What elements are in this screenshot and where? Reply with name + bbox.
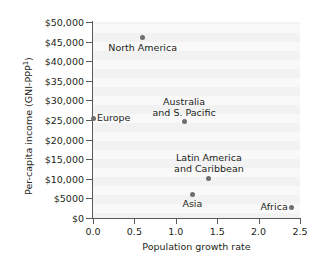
data-point-label-line: and Caribbean xyxy=(174,163,244,174)
data-point-label: North America xyxy=(108,42,177,53)
y-tick-mark xyxy=(86,61,92,62)
y-tick-mark xyxy=(86,218,92,219)
y-axis-title: Per-capita income (GNI-PPP1) xyxy=(22,36,34,216)
data-point-label-line: Australia xyxy=(153,96,216,107)
x-tick-label: 1.0 xyxy=(156,226,196,237)
y-tick-mark xyxy=(86,42,92,43)
y-tick-label: $0 xyxy=(0,213,84,224)
x-axis-line xyxy=(92,218,301,219)
y-tick-mark xyxy=(86,159,92,160)
y-tick-label: $15,000 xyxy=(0,154,84,165)
x-tick-mark xyxy=(259,219,260,224)
x-tick-mark xyxy=(217,219,218,224)
plot-band xyxy=(93,78,300,87)
x-tick-label: 2.5 xyxy=(280,226,320,237)
data-point-label-line: North America xyxy=(108,42,177,53)
x-tick-label: 0.0 xyxy=(73,226,113,237)
y-axis-title-footnote-marker: 1 xyxy=(22,61,30,65)
x-tick-mark xyxy=(134,219,135,224)
x-axis-title: Population growth rate xyxy=(93,241,300,252)
data-point-label-line: Africa xyxy=(261,201,288,212)
x-tick-mark xyxy=(93,219,94,224)
data-point-label-line: Latin America xyxy=(174,152,244,163)
data-point xyxy=(91,116,96,121)
x-tick-mark xyxy=(176,219,177,224)
data-point-label-line: and S. Pacific xyxy=(153,107,216,118)
plot-band xyxy=(93,60,300,69)
y-tick-mark xyxy=(86,81,92,82)
data-point-label: Africa xyxy=(261,201,288,212)
y-tick-label: $10,000 xyxy=(0,173,84,184)
plot-band xyxy=(93,186,300,195)
y-tick-mark xyxy=(86,22,92,23)
x-tick-label: 0.5 xyxy=(114,226,154,237)
data-point-label: Australiaand S. Pacific xyxy=(153,96,216,118)
y-tick-mark xyxy=(86,179,92,180)
y-tick-label: $45,000 xyxy=(0,36,84,47)
y-tick-label: $50,000 xyxy=(0,17,84,28)
y-tick-mark xyxy=(86,100,92,101)
plot-band xyxy=(93,132,300,141)
y-tick-label: $40,000 xyxy=(0,56,84,67)
scatter-chart-figure: $0$5000$10,000$15,000$20,000$25,000$30,0… xyxy=(0,0,323,265)
y-tick-label: $5000 xyxy=(0,193,84,204)
x-tick-label: 2.0 xyxy=(239,226,279,237)
x-tick-label: 1.5 xyxy=(197,226,237,237)
data-point-label-line: Asia xyxy=(182,198,202,209)
data-point xyxy=(190,192,195,197)
y-tick-label: $30,000 xyxy=(0,95,84,106)
y-tick-label: $35,000 xyxy=(0,75,84,86)
y-tick-mark xyxy=(86,140,92,141)
plot-band xyxy=(93,24,300,33)
data-point-label: Latin Americaand Caribbean xyxy=(174,152,244,174)
data-point-label: Asia xyxy=(182,198,202,209)
data-point-label-line: Europe xyxy=(97,112,130,123)
data-point-label: Europe xyxy=(97,112,130,123)
y-tick-label: $20,000 xyxy=(0,134,84,145)
x-tick-mark xyxy=(300,219,301,224)
y-tick-label: $25,000 xyxy=(0,115,84,126)
y-tick-mark xyxy=(86,198,92,199)
